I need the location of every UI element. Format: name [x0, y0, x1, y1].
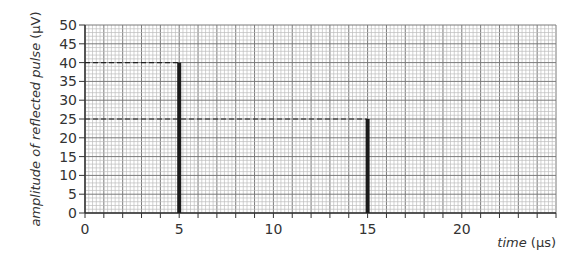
annotations [85, 63, 368, 119]
y-tick-label: 20 [59, 130, 77, 146]
y-tick-label: 40 [59, 55, 77, 71]
pulse-chart: 05101520 05101520253035404550 time (μs) … [0, 0, 588, 259]
y-tick-label: 30 [59, 92, 77, 108]
y-tick-label: 25 [59, 111, 77, 127]
y-tick-labels: 05101520253035404550 [59, 17, 77, 221]
x-tick-label: 20 [453, 221, 471, 237]
x-tick-label: 0 [81, 221, 90, 237]
pulse-bar [366, 119, 370, 213]
y-tick-label: 35 [59, 73, 77, 89]
x-tick-label: 10 [264, 221, 282, 237]
y-tick-label: 50 [59, 17, 77, 33]
x-axis-title: time (μs) [497, 235, 556, 250]
y-tick-label: 15 [59, 149, 77, 165]
y-tick-label: 10 [59, 167, 77, 183]
pulse-bar [177, 63, 181, 213]
x-tick-label: 15 [359, 221, 377, 237]
y-tick-label: 0 [68, 205, 77, 221]
y-tick-label: 45 [59, 36, 77, 52]
x-tick-labels: 05101520 [81, 221, 471, 237]
y-axis-title: amplitude of reflected pulse (μV) [28, 11, 43, 226]
x-tick-label: 5 [175, 221, 184, 237]
y-tick-label: 5 [68, 186, 77, 202]
